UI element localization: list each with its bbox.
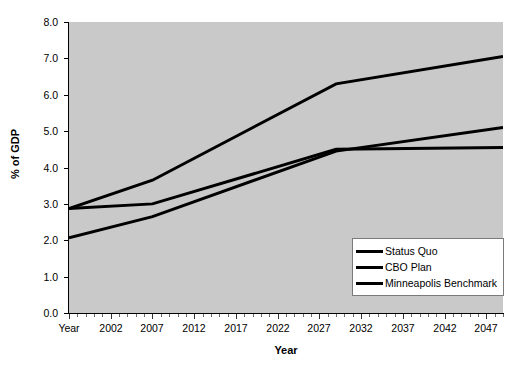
y-tick-label: 1.0: [24, 272, 58, 282]
y-tick-mark: [64, 240, 69, 241]
x-tick-mark-minor: [86, 314, 87, 317]
legend-item[interactable]: CBO Plan: [356, 259, 500, 275]
chart-container: 0.01.02.03.04.05.06.07.08.0 Year20022007…: [0, 0, 527, 381]
y-tick-mark: [64, 95, 69, 96]
x-tick-mark-minor: [453, 314, 454, 317]
y-tick-mark: [64, 277, 69, 278]
x-tick-mark-minor: [203, 314, 204, 317]
legend-line-swatch-icon: [356, 266, 383, 269]
x-tick-mark-minor: [253, 314, 254, 317]
x-tick-mark-minor: [436, 314, 437, 317]
x-tick-mark-minor: [353, 314, 354, 317]
y-tick-label: 4.0: [24, 163, 58, 173]
x-tick-mark-minor: [269, 314, 270, 317]
legend-label: Status Quo: [385, 246, 438, 257]
y-tick-label: 0.0: [24, 308, 58, 318]
x-tick-mark-minor: [211, 314, 212, 317]
x-tick-mark-minor: [127, 314, 128, 317]
x-tick-mark-minor: [411, 314, 412, 317]
y-tick-mark: [64, 22, 69, 23]
x-tick-mark-minor: [77, 314, 78, 317]
x-axis-title: Year: [69, 344, 503, 356]
x-tick-mark-minor: [470, 314, 471, 317]
x-tick-mark-minor: [344, 314, 345, 317]
series-line-group: [69, 57, 503, 238]
y-tick-label: 2.0: [24, 235, 58, 245]
series-line-3: [69, 127, 503, 237]
x-tick-mark-major: [111, 314, 112, 319]
chart-legend: Status QuoCBO PlanMinneapolis Benchmark: [352, 238, 504, 296]
y-tick-label: 7.0: [24, 53, 58, 63]
x-tick-mark-minor: [219, 314, 220, 317]
x-tick-mark-minor: [378, 314, 379, 317]
y-tick-label: 3.0: [24, 199, 58, 209]
x-tick-mark-major: [361, 314, 362, 319]
y-tick-mark: [64, 168, 69, 169]
series-line-1: [69, 57, 503, 209]
x-tick-mark-major: [69, 314, 70, 319]
x-tick-mark-major: [319, 314, 320, 319]
x-tick-mark-minor: [303, 314, 304, 317]
x-tick-mark-major: [194, 314, 195, 319]
legend-item[interactable]: Minneapolis Benchmark: [356, 275, 500, 291]
x-tick-mark-minor: [94, 314, 95, 317]
x-tick-mark-minor: [136, 314, 137, 317]
x-tick-mark-minor: [119, 314, 120, 317]
x-tick-label: 2047: [456, 322, 516, 334]
x-tick-mark-minor: [144, 314, 145, 317]
y-tick-mark: [64, 131, 69, 132]
y-tick-label: 6.0: [24, 90, 58, 100]
x-tick-mark-minor: [228, 314, 229, 317]
x-tick-mark-major: [486, 314, 487, 319]
x-tick-mark-minor: [420, 314, 421, 317]
x-tick-mark-major: [445, 314, 446, 319]
x-tick-mark-minor: [386, 314, 387, 317]
x-tick-mark-minor: [102, 314, 103, 317]
x-tick-mark-minor: [186, 314, 187, 317]
x-tick-mark-minor: [286, 314, 287, 317]
x-tick-mark-minor: [461, 314, 462, 317]
x-tick-mark-minor: [294, 314, 295, 317]
x-tick-mark-minor: [503, 314, 504, 317]
x-tick-mark-minor: [478, 314, 479, 317]
y-axis-title: % of GDP: [9, 109, 21, 199]
y-tick-label: 5.0: [24, 126, 58, 136]
legend-line-swatch-icon: [356, 282, 383, 285]
x-tick-mark-minor: [495, 314, 496, 317]
x-tick-mark-minor: [169, 314, 170, 317]
x-tick-mark-minor: [328, 314, 329, 317]
x-tick-mark-major: [236, 314, 237, 319]
x-tick-mark-minor: [261, 314, 262, 317]
legend-label: CBO Plan: [385, 262, 432, 273]
x-tick-mark-minor: [311, 314, 312, 317]
x-tick-mark-minor: [336, 314, 337, 317]
series-line-2: [69, 147, 503, 208]
legend-item[interactable]: Status Quo: [356, 243, 500, 259]
legend-line-swatch-icon: [356, 250, 383, 253]
x-tick-mark-major: [403, 314, 404, 319]
x-tick-mark-minor: [395, 314, 396, 317]
legend-label: Minneapolis Benchmark: [385, 278, 497, 289]
y-tick-label: 8.0: [24, 17, 58, 27]
x-tick-mark-minor: [369, 314, 370, 317]
x-tick-mark-minor: [244, 314, 245, 317]
x-tick-mark-minor: [428, 314, 429, 317]
y-tick-mark: [64, 58, 69, 59]
x-tick-mark-minor: [178, 314, 179, 317]
x-tick-mark-major: [152, 314, 153, 319]
y-tick-mark: [64, 204, 69, 205]
x-tick-mark-major: [278, 314, 279, 319]
x-tick-mark-minor: [161, 314, 162, 317]
